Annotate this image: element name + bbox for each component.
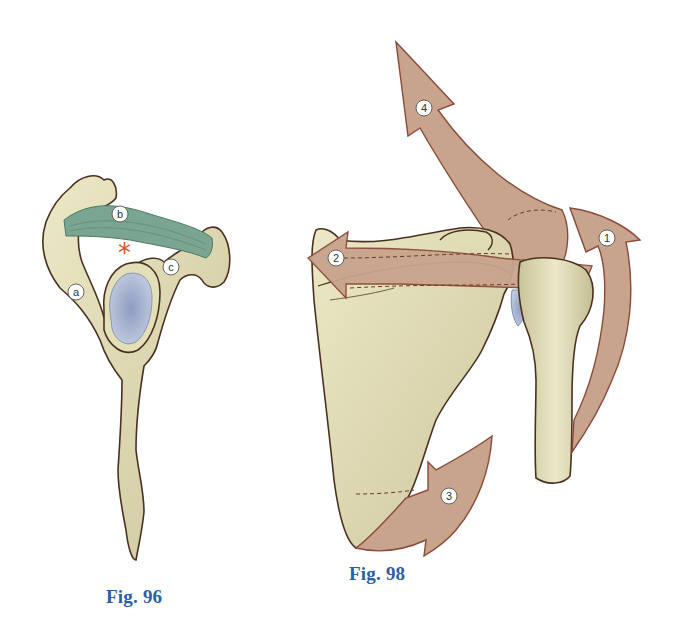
svg-text:3: 3 xyxy=(446,490,452,502)
fig96-scapula-lateral: * a b c xyxy=(43,176,230,560)
anatomy-illustration: * a b c xyxy=(0,0,678,629)
svg-text:4: 4 xyxy=(421,102,427,114)
label-b: b xyxy=(112,206,128,222)
fig98-scapula-posterior: 1 2 3 4 xyxy=(308,42,640,556)
svg-text:b: b xyxy=(117,208,123,220)
label-c: c xyxy=(163,259,179,275)
arrow-label-4: 4 xyxy=(416,100,432,116)
svg-text:c: c xyxy=(168,261,174,273)
svg-text:1: 1 xyxy=(604,232,610,244)
svg-text:a: a xyxy=(73,286,80,298)
label-a: a xyxy=(68,284,84,300)
asterisk-marker: * xyxy=(118,238,131,268)
coracoacromial-ligament xyxy=(64,206,213,258)
arrow-label-1: 1 xyxy=(599,230,615,246)
humerus xyxy=(518,258,593,483)
arrow-label-3: 3 xyxy=(441,488,457,504)
fig96-caption: Fig. 96 xyxy=(106,586,162,608)
fig98-caption: Fig. 98 xyxy=(349,563,405,585)
arrow-label-2: 2 xyxy=(328,250,344,266)
svg-text:2: 2 xyxy=(333,252,339,264)
